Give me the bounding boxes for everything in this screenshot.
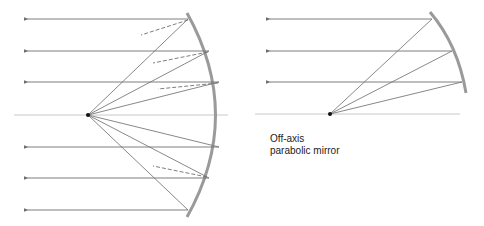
focus-point	[328, 112, 332, 116]
caption-line-1: Off-axis	[270, 133, 339, 145]
focus-point	[86, 113, 90, 117]
off-axis-mirror-diagram	[255, 12, 466, 116]
off-axis-caption: Off-axis parabolic mirror	[270, 133, 339, 157]
caption-line-2: parabolic mirror	[270, 145, 339, 157]
on-axis-mirror-diagram	[14, 13, 228, 217]
incident-rays	[330, 19, 462, 114]
off-axis-parabolic-mirror	[430, 12, 466, 93]
reflected-rays	[270, 19, 462, 82]
parabolic-mirror-diagram	[0, 0, 484, 226]
